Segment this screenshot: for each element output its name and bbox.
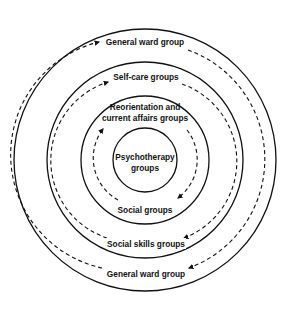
- label-social-groups: Social groups: [118, 205, 173, 215]
- label-reorientation-line2: current affairs groups: [102, 113, 189, 123]
- dashed-arrow-third-left: [93, 129, 118, 200]
- dashed-arrow-outer-right: [188, 50, 265, 268]
- label-psychotherapy-line1: Psychotherapy: [115, 152, 175, 162]
- dashed-arrow-third-right: [178, 130, 197, 198]
- label-self-care: Self-care groups: [113, 72, 179, 82]
- dashed-arrow-second-left: [51, 82, 108, 238]
- label-general-ward-bottom: General ward group: [107, 269, 185, 279]
- label-general-ward-top: General ward group: [106, 37, 184, 47]
- dashed-arrow-outer-left: [11, 42, 102, 268]
- label-reorientation-line1: Reorientation and: [110, 102, 181, 112]
- concentric-groups-diagram: General ward group Self-care groups Reor…: [0, 0, 290, 310]
- label-psychotherapy-line2: groups: [131, 163, 160, 173]
- label-social-skills: Social skills groups: [107, 239, 185, 249]
